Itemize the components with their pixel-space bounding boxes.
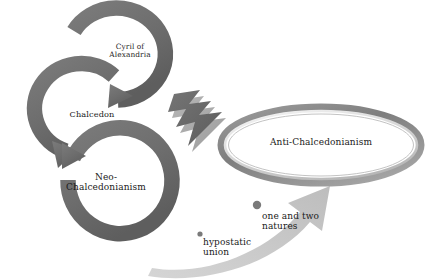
diagram-canvas: Cyril of Alexandria Chalcedon Neo- Chalc…	[0, 0, 443, 279]
cycle-label-chalcedon: Chalcedon	[44, 110, 140, 119]
cycle-label-neo-chalcedonianism: Neo- Chalcedonianism	[44, 172, 168, 192]
cycle-label-cyril: Cyril of Alexandria	[88, 43, 172, 60]
bullet-dot-hypostatic-union	[197, 231, 202, 236]
annotation-label-hypostatic-union: hypostatic union	[203, 237, 293, 257]
lightning-bolt-icon	[168, 90, 226, 152]
ellipse-label-anti-chalcedonianism: Anti-Chalcedonianism	[246, 137, 396, 147]
annotation-label-natures: one and two natures	[262, 211, 348, 231]
bullet-dot-natures	[253, 201, 261, 209]
